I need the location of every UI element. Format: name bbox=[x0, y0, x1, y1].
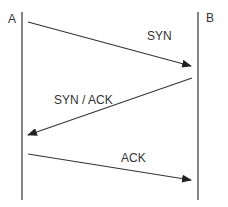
tcp-handshake-diagram: A B SYN SYN / ACK ACK bbox=[0, 0, 228, 207]
message-arrow-ack bbox=[28, 154, 191, 180]
message-label-ack: ACK bbox=[121, 151, 146, 165]
message-label-syn: SYN bbox=[147, 29, 172, 43]
participant-label-b: B bbox=[206, 11, 214, 25]
message-label-syn-ack: SYN / ACK bbox=[54, 93, 113, 107]
participant-label-a: A bbox=[8, 12, 16, 26]
